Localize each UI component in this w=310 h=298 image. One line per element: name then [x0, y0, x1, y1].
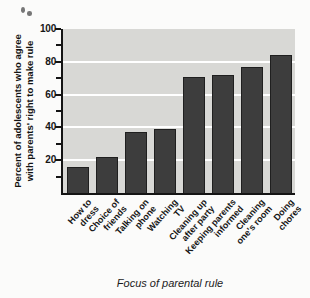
y-tick-label: 80 — [22, 56, 56, 67]
scan-artifact — [21, 7, 25, 13]
scan-artifact — [27, 11, 32, 16]
bar-6 — [212, 75, 234, 193]
y-tick-label: 100 — [22, 23, 56, 34]
y-minor-tick — [56, 110, 61, 112]
y-minor-tick — [56, 176, 61, 178]
figure: Percent of adolescents who agreewith par… — [0, 0, 310, 298]
x-axis-line — [61, 193, 295, 195]
bar-5 — [183, 77, 205, 193]
bar-1 — [67, 167, 89, 193]
y-minor-tick — [56, 143, 61, 145]
y-minor-tick — [56, 44, 61, 46]
y-axis-title: Percent of adolescents who agreewith par… — [12, 11, 36, 211]
x-axis-title: Focus of parental rule — [40, 277, 300, 289]
y-tick-label: 60 — [22, 89, 56, 100]
x-tick-label: Doing chores — [269, 197, 304, 232]
bar-4 — [154, 129, 176, 193]
bar-3 — [125, 132, 147, 193]
y-tick-label: 20 — [22, 154, 56, 165]
bar-7 — [241, 67, 263, 193]
y-minor-tick — [56, 77, 61, 79]
y-tick-label: 40 — [22, 121, 56, 132]
bar-8 — [270, 55, 292, 193]
y-gridline — [63, 61, 295, 63]
bar-2 — [96, 157, 118, 193]
y-axis-line — [61, 29, 63, 195]
